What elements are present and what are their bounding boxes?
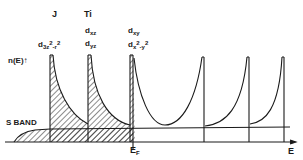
orbital-label-dx2-y2: dx2-y2 — [128, 40, 148, 50]
s-band-label: S BAND — [6, 119, 37, 127]
energy-axis-label: E — [288, 147, 294, 156]
y-axis-label: n(E)↑ — [8, 57, 28, 65]
orbital-label-d3z2-r2: d3z2-r2 — [38, 40, 60, 50]
orbital-label-dyz: dyz — [85, 40, 96, 49]
orbital-label-dxz: dxz — [85, 27, 96, 36]
density-of-states-diagram — [0, 0, 303, 160]
site-label-ti: Ti — [84, 10, 92, 19]
site-label-j: J — [52, 10, 57, 19]
fermi-energy-label: EF — [130, 146, 140, 156]
up-arrow-icon: ↑ — [24, 56, 28, 65]
orbital-label-dxy: dxy — [128, 27, 140, 36]
